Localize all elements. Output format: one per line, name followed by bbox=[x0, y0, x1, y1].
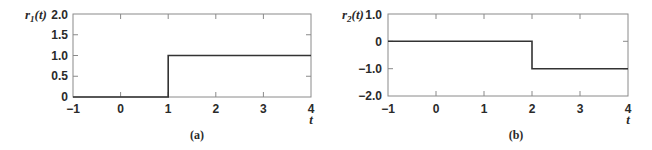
y-tick-label: 1.5 bbox=[51, 28, 68, 42]
x-tick-label: −1 bbox=[381, 102, 395, 116]
x-tick-label: 1 bbox=[481, 102, 488, 116]
x-tick-label: 3 bbox=[260, 102, 267, 116]
series-r1 bbox=[73, 56, 311, 98]
chart-panel-b: −2.0 −1.0 0 1.0 r2(t) −1 0 1 2 3 4 t (b) bbox=[326, 0, 652, 150]
y-axis-label: r2(t) bbox=[342, 7, 364, 24]
y-axis-label: r1(t) bbox=[25, 7, 47, 24]
x-tick-label: 3 bbox=[577, 102, 584, 116]
y-tick-label: 1.0 bbox=[365, 8, 382, 22]
x-tick-label: −1 bbox=[66, 102, 80, 116]
y-tick-label: 1.0 bbox=[51, 49, 68, 63]
series-r2 bbox=[388, 41, 628, 68]
x-axis-label: t bbox=[309, 112, 313, 127]
y-tick-label: 0.5 bbox=[51, 69, 68, 83]
x-ticks bbox=[436, 14, 580, 96]
x-tick-label: 0 bbox=[433, 102, 440, 116]
x-tick-label: 1 bbox=[165, 102, 172, 116]
y-ticks bbox=[388, 41, 628, 68]
x-tick-label: 0 bbox=[117, 102, 124, 116]
y-tick-label: −1.0 bbox=[358, 62, 382, 76]
x-axis-label: t bbox=[626, 112, 630, 127]
y-tick-label: −2.0 bbox=[358, 89, 382, 103]
chart-panel-a: 0 0.5 1.0 1.5 2.0 r1(t) −1 0 1 2 3 4 t (… bbox=[0, 0, 326, 150]
caption-b: (b) bbox=[486, 128, 546, 143]
x-tick-label: 2 bbox=[529, 102, 536, 116]
x-tick-label: 2 bbox=[212, 102, 219, 116]
plot-frame bbox=[388, 14, 628, 96]
caption-a: (a) bbox=[167, 128, 227, 143]
y-tick-label: 0 bbox=[375, 35, 382, 49]
chart-a-svg: 0 0.5 1.0 1.5 2.0 r1(t) −1 0 1 2 3 4 t bbox=[0, 0, 326, 150]
y-tick-label: 2.0 bbox=[51, 8, 68, 22]
